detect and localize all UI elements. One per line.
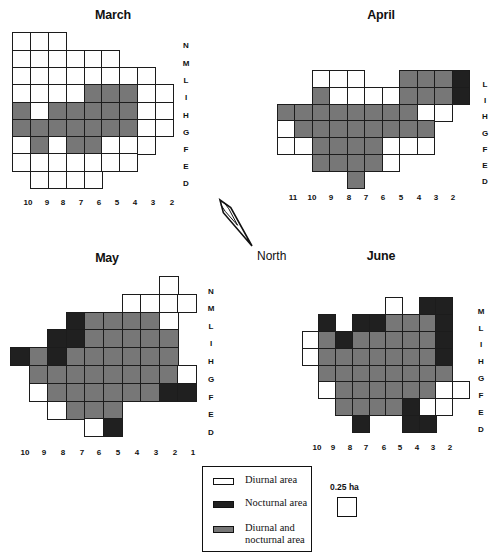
legend: Diurnal area Nocturnal area Diurnal and … [202,466,312,552]
legend-label-nocturnal: Nocturnal area [245,497,307,509]
scale-label: 0.25 ha [330,482,359,492]
legend-label-both: Diurnal and nocturnal area [245,522,313,546]
legend-label-diurnal: Diurnal area [245,474,297,486]
north-label: North [257,249,286,263]
diurnal-swatch [213,478,234,485]
scale-square [337,497,357,517]
both-swatch [213,526,234,533]
nocturnal-swatch [213,501,234,508]
